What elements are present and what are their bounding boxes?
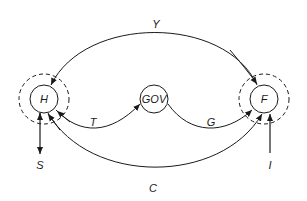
flow-y-label: Y <box>152 18 160 30</box>
household-label: H <box>40 93 48 105</box>
node-household: H <box>19 74 69 124</box>
node-government: GOV <box>140 85 168 113</box>
flow-c-label: C <box>149 182 157 194</box>
flow-t-label: T <box>90 116 98 128</box>
flow-t-arrow <box>56 104 140 128</box>
government-label: GOV <box>142 93 168 105</box>
flow-s-label: S <box>36 159 44 171</box>
flow-g-label: G <box>207 116 216 128</box>
flow-i-label: I <box>268 159 271 171</box>
flow-t-arrowhead-h <box>57 111 70 122</box>
flow-c-arrow <box>48 113 262 167</box>
flow-c-arrowhead-h <box>48 114 60 130</box>
flow-y-arrow <box>51 33 257 86</box>
circular-flow-diagram: H GOV F Y T G C S I <box>0 0 307 201</box>
flow-y-arrowhead-f <box>230 50 257 84</box>
node-firm: F <box>239 74 289 124</box>
